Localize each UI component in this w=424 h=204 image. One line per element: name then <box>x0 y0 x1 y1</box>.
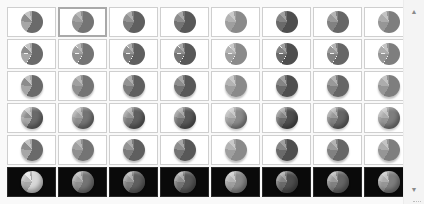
chart-style-option-33[interactable] <box>7 135 56 165</box>
chart-style-option-46[interactable] <box>262 167 311 197</box>
pie-chart-thumbnail-icon <box>72 139 94 161</box>
chart-style-option-3[interactable] <box>109 7 158 37</box>
vertical-scrollbar[interactable]: ▲ ▼ <box>403 0 424 204</box>
pie-chart-thumbnail-icon <box>327 43 349 65</box>
pie-chart-thumbnail-icon <box>123 11 145 33</box>
chart-style-option-9[interactable] <box>7 39 56 69</box>
chart-style-option-22[interactable] <box>262 71 311 101</box>
pie-chart-thumbnail-icon <box>72 75 94 97</box>
chart-style-option-2[interactable] <box>58 7 107 37</box>
pie-chart-thumbnail-icon <box>276 11 298 33</box>
chart-style-option-39[interactable] <box>313 135 362 165</box>
chart-style-option-11[interactable] <box>109 39 158 69</box>
pie-chart-thumbnail-icon <box>378 75 400 97</box>
chart-style-option-17[interactable] <box>7 71 56 101</box>
chart-style-option-31[interactable] <box>313 103 362 133</box>
chart-style-option-41[interactable] <box>7 167 56 197</box>
chart-style-option-7[interactable] <box>313 7 362 37</box>
pie-chart-thumbnail-icon <box>123 75 145 97</box>
chart-style-option-5[interactable] <box>211 7 260 37</box>
pie-chart-thumbnail-icon <box>327 139 349 161</box>
pie-chart-thumbnail-icon <box>225 75 247 97</box>
pie-chart-thumbnail-icon <box>21 107 43 129</box>
chart-style-option-30[interactable] <box>262 103 311 133</box>
pie-chart-thumbnail-icon <box>327 11 349 33</box>
resize-grip[interactable] <box>413 197 421 202</box>
pie-chart-thumbnail-icon <box>225 139 247 161</box>
pie-chart-thumbnail-icon <box>378 107 400 129</box>
pie-chart-thumbnail-icon <box>327 107 349 129</box>
pie-chart-thumbnail-icon <box>123 171 145 193</box>
pie-chart-thumbnail-icon <box>123 139 145 161</box>
chart-style-option-6[interactable] <box>262 7 311 37</box>
chart-style-option-37[interactable] <box>211 135 260 165</box>
pie-chart-thumbnail-icon <box>72 11 94 33</box>
style-grid <box>7 7 413 197</box>
chart-style-option-15[interactable] <box>313 39 362 69</box>
chart-style-option-38[interactable] <box>262 135 311 165</box>
chart-style-option-29[interactable] <box>211 103 260 133</box>
chart-style-option-34[interactable] <box>58 135 107 165</box>
pie-chart-thumbnail-icon <box>276 75 298 97</box>
pie-chart-thumbnail-icon <box>21 11 43 33</box>
chart-style-gallery <box>0 0 404 204</box>
pie-chart-thumbnail-icon <box>21 171 43 193</box>
pie-chart-thumbnail-icon <box>174 11 196 33</box>
pie-chart-thumbnail-icon <box>174 171 196 193</box>
pie-chart-thumbnail-icon <box>327 171 349 193</box>
chart-style-option-14[interactable] <box>262 39 311 69</box>
pie-chart-thumbnail-icon <box>378 11 400 33</box>
pie-chart-thumbnail-icon <box>72 107 94 129</box>
pie-chart-thumbnail-icon <box>378 171 400 193</box>
pie-chart-thumbnail-icon <box>72 171 94 193</box>
chart-style-option-45[interactable] <box>211 167 260 197</box>
chart-style-option-13[interactable] <box>211 39 260 69</box>
pie-chart-thumbnail-icon <box>225 107 247 129</box>
pie-chart-thumbnail-icon <box>276 107 298 129</box>
pie-chart-thumbnail-icon <box>225 11 247 33</box>
pie-chart-thumbnail-icon <box>123 43 145 65</box>
chart-style-option-25[interactable] <box>7 103 56 133</box>
pie-chart-thumbnail-icon <box>276 139 298 161</box>
chart-style-option-19[interactable] <box>109 71 158 101</box>
pie-chart-thumbnail-icon <box>327 75 349 97</box>
pie-chart-thumbnail-icon <box>21 43 43 65</box>
chart-style-option-4[interactable] <box>160 7 209 37</box>
pie-chart-thumbnail-icon <box>276 171 298 193</box>
chart-style-option-36[interactable] <box>160 135 209 165</box>
chart-style-option-18[interactable] <box>58 71 107 101</box>
pie-chart-thumbnail-icon <box>225 43 247 65</box>
chart-style-option-47[interactable] <box>313 167 362 197</box>
chart-style-option-27[interactable] <box>109 103 158 133</box>
chart-style-option-43[interactable] <box>109 167 158 197</box>
chart-style-option-20[interactable] <box>160 71 209 101</box>
chart-style-option-28[interactable] <box>160 103 209 133</box>
chart-style-option-12[interactable] <box>160 39 209 69</box>
chart-style-option-42[interactable] <box>58 167 107 197</box>
pie-chart-thumbnail-icon <box>21 75 43 97</box>
chart-style-option-26[interactable] <box>58 103 107 133</box>
pie-chart-thumbnail-icon <box>174 107 196 129</box>
chart-style-option-23[interactable] <box>313 71 362 101</box>
pie-chart-thumbnail-icon <box>123 107 145 129</box>
chart-style-option-35[interactable] <box>109 135 158 165</box>
scroll-down-arrow-icon[interactable]: ▼ <box>409 186 419 194</box>
chart-style-option-10[interactable] <box>58 39 107 69</box>
pie-chart-thumbnail-icon <box>174 139 196 161</box>
pie-chart-thumbnail-icon <box>174 43 196 65</box>
chart-style-option-1[interactable] <box>7 7 56 37</box>
pie-chart-thumbnail-icon <box>276 43 298 65</box>
chart-style-option-21[interactable] <box>211 71 260 101</box>
pie-chart-thumbnail-icon <box>72 43 94 65</box>
pie-chart-thumbnail-icon <box>225 171 247 193</box>
pie-chart-thumbnail-icon <box>174 75 196 97</box>
scroll-up-arrow-icon[interactable]: ▲ <box>409 8 419 16</box>
pie-chart-thumbnail-icon <box>21 139 43 161</box>
pie-chart-thumbnail-icon <box>378 43 400 65</box>
chart-style-option-44[interactable] <box>160 167 209 197</box>
pie-chart-thumbnail-icon <box>378 139 400 161</box>
